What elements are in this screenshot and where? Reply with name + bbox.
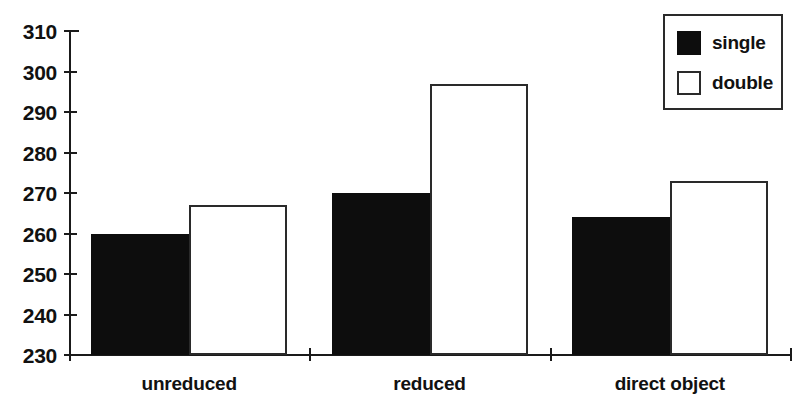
x-axis-tick xyxy=(69,348,71,361)
legend-label-double: double xyxy=(712,72,773,94)
y-axis-tick xyxy=(64,192,77,194)
bar-single-direct-object xyxy=(572,217,670,355)
legend-swatch-single-icon xyxy=(677,31,701,55)
y-axis-tick xyxy=(64,314,77,316)
y-axis-tick-label: 250 xyxy=(12,264,57,285)
y-axis-tick-label: 230 xyxy=(12,345,57,366)
x-axis-category-label: reduced xyxy=(309,373,549,395)
legend-entry-double: double xyxy=(677,71,773,95)
y-axis-tick-label: 300 xyxy=(12,62,57,83)
y-axis-tick xyxy=(64,233,77,235)
y-axis-tick-label: 260 xyxy=(12,224,57,245)
y-axis-tick xyxy=(64,71,77,73)
legend-swatch-double-icon xyxy=(677,71,701,95)
y-axis-tick-label: 240 xyxy=(12,305,57,326)
bar-double-direct-object xyxy=(670,181,768,355)
x-axis-tick xyxy=(309,348,311,361)
y-axis-tick-label: 270 xyxy=(12,183,57,204)
bar-chart-figure: 230240250260270280290300310 unreducedred… xyxy=(0,0,801,413)
legend-entry-single: single xyxy=(677,31,766,55)
y-axis-tick-label: 280 xyxy=(12,143,57,164)
bar-double-unreduced xyxy=(189,205,287,355)
y-axis-tick-label: 290 xyxy=(12,102,57,123)
bar-single-unreduced xyxy=(91,234,189,356)
bar-double-reduced xyxy=(430,84,528,355)
bar-single-reduced xyxy=(332,193,430,355)
chart-legend: single double xyxy=(663,14,783,110)
x-axis-tick xyxy=(790,348,792,361)
y-axis-tick xyxy=(64,273,77,275)
y-axis-tick xyxy=(64,152,77,154)
legend-label-single: single xyxy=(712,32,766,54)
x-axis-category-label: direct object xyxy=(550,373,790,395)
x-axis-tick xyxy=(550,348,552,361)
x-axis-category-label: unreduced xyxy=(69,373,309,395)
y-axis-tick xyxy=(64,111,77,113)
y-axis-tick xyxy=(64,30,79,32)
y-axis-tick-label: 310 xyxy=(12,21,57,42)
